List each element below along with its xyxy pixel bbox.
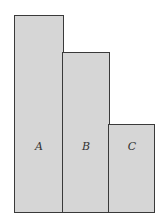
bar-a: [14, 15, 64, 213]
label-c: C: [128, 140, 136, 153]
label-b: B: [82, 140, 90, 153]
bar-c: [108, 124, 155, 213]
label-a: A: [35, 140, 43, 153]
bar-b: [62, 52, 110, 213]
